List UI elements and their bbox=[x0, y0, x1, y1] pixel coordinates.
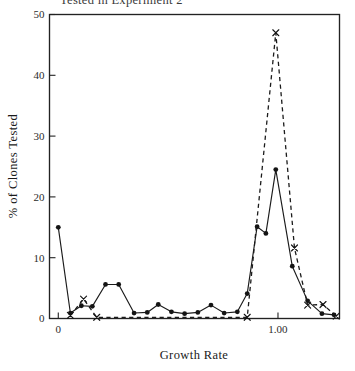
y-axis-ticks bbox=[50, 15, 56, 258]
data-point-marker bbox=[255, 224, 260, 229]
data-point-marker bbox=[116, 282, 121, 287]
data-point-marker bbox=[290, 264, 295, 269]
x-tick-label-0: 0 bbox=[56, 323, 62, 335]
data-point-marker bbox=[182, 311, 187, 316]
y-tick-label-30: 30 bbox=[34, 130, 46, 142]
figure-title-text: Tested in Experiment 2 bbox=[60, 0, 183, 8]
y-tick-label-0: 0 bbox=[39, 312, 45, 324]
x-axis-tick-labels: 01.00 bbox=[56, 323, 289, 335]
data-point-marker bbox=[145, 310, 150, 315]
series-solid-circles bbox=[56, 167, 337, 317]
y-axis-title: % of Clones Tested bbox=[6, 113, 20, 218]
data-series-layer bbox=[56, 30, 339, 321]
data-point-marker bbox=[320, 311, 325, 316]
data-point-marker bbox=[273, 167, 278, 172]
y-tick-label-10: 10 bbox=[34, 252, 46, 264]
y-axis-tick-labels: 01020304050 bbox=[34, 8, 46, 324]
figure-title-clipped: Tested in Experiment 2 bbox=[0, 0, 355, 11]
data-point-marker bbox=[56, 225, 61, 230]
data-point-marker bbox=[103, 282, 108, 287]
data-point-marker bbox=[235, 309, 240, 314]
chart-canvas: 01020304050 01.00 Growth Rate % of Clone… bbox=[0, 0, 355, 371]
x-axis-title: Growth Rate bbox=[160, 348, 229, 362]
y-tick-label-20: 20 bbox=[34, 191, 46, 203]
series-dashed-x bbox=[67, 30, 339, 321]
data-point-marker bbox=[79, 303, 84, 308]
data-point-marker bbox=[264, 231, 269, 236]
data-point-marker bbox=[156, 302, 161, 307]
data-point-marker bbox=[222, 311, 227, 316]
data-point-marker bbox=[81, 296, 87, 302]
data-point-marker bbox=[209, 303, 214, 308]
figure-panel: Tested in Experiment 2 01020304050 01.00… bbox=[0, 0, 355, 371]
data-point-marker bbox=[132, 311, 137, 316]
y-tick-label-40: 40 bbox=[34, 69, 46, 81]
plot-frame bbox=[50, 15, 340, 319]
data-point-marker bbox=[169, 309, 174, 314]
data-point-marker bbox=[195, 310, 200, 315]
x-tick-label-1.00: 1.00 bbox=[268, 323, 288, 335]
series-line-solid-circles bbox=[58, 170, 334, 315]
